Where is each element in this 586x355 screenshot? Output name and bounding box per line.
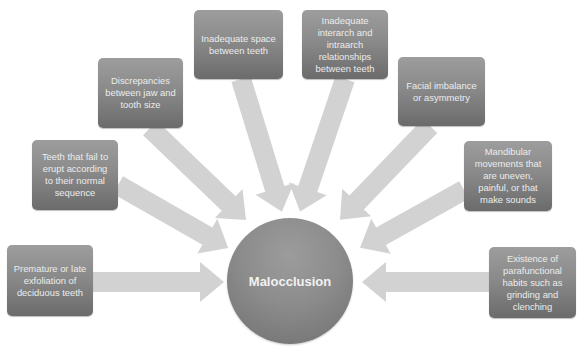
cause-label: Inadequate space between teeth xyxy=(200,33,277,57)
center-node-malocclusion: Malocclusion xyxy=(227,218,353,344)
cause-label: Premature or late exfoliation of deciduo… xyxy=(13,263,87,299)
cause-label: Facial imbalance or asymmetry xyxy=(404,80,479,104)
cause-box-eruption-sequence: Teeth that fail to erupt according to th… xyxy=(32,140,118,210)
cause-label: Mandibular movements that are uneven, pa… xyxy=(470,146,546,206)
cause-box-mandibular-movements: Mandibular movements that are uneven, pa… xyxy=(464,141,552,211)
cause-box-facial-imbalance: Facial imbalance or asymmetry xyxy=(398,57,485,126)
center-label: Malocclusion xyxy=(249,274,331,289)
arrow-c8 xyxy=(362,262,489,302)
cause-box-premature-exfoliation: Premature or late exfoliation of deciduo… xyxy=(7,245,93,316)
cause-label: Discrepancies between jaw and tooth size xyxy=(104,75,177,111)
cause-label: Inadequate interarch and intraarch relat… xyxy=(308,15,382,75)
arrow-c1 xyxy=(93,262,224,302)
cause-box-interarch-relationships: Inadequate interarch and intraarch relat… xyxy=(302,10,388,79)
cause-label: Existence of parafunctional habits such … xyxy=(495,253,570,313)
cause-box-jaw-tooth-discrepancy: Discrepancies between jaw and tooth size xyxy=(98,58,183,128)
cause-label: Teeth that fail to erupt according to th… xyxy=(38,151,112,199)
cause-box-inadequate-space: Inadequate space between teeth xyxy=(194,10,283,79)
cause-box-parafunctional-habits: Existence of parafunctional habits such … xyxy=(489,247,576,318)
